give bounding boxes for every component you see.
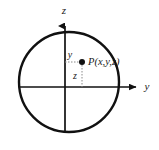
point-p-marker — [79, 59, 85, 65]
figure-container: z y y z P(x,y,z) — [0, 0, 159, 150]
point-p-label: P(x,y,z) — [87, 56, 120, 68]
z-axis-label: z — [61, 4, 67, 16]
segment-z-label: z — [72, 70, 77, 81]
cylindrical-coordinate-diagram: z y y z P(x,y,z) — [0, 0, 159, 150]
y-axis-label: y — [144, 80, 150, 92]
segment-y-label: y — [67, 49, 73, 60]
canvas-background — [0, 0, 159, 150]
